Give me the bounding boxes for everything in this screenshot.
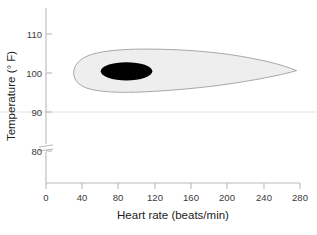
x-tick-label-160: 160: [183, 192, 199, 203]
x-tick-label-0: 0: [43, 192, 48, 203]
y-tick-label-110: 110: [27, 29, 42, 40]
chart-figure: 110 100 90 80 0 40 80 120 160 200 240 28…: [0, 0, 317, 235]
x-tick-label-80: 80: [113, 192, 124, 203]
x-axis-title: Heart rate (beats/min): [117, 209, 229, 221]
x-tick-label-40: 40: [77, 192, 88, 203]
x-tick-label-240: 240: [256, 192, 272, 203]
y-tick-label-100: 100: [26, 68, 42, 79]
y-axis-title: Temperature (° F): [5, 51, 17, 141]
y-tick-label-90: 90: [31, 107, 42, 118]
chart-canvas: 110 100 90 80 0 40 80 120 160 200 240 28…: [0, 0, 317, 235]
x-tick-label-120: 120: [147, 192, 163, 203]
inner-core-ellipse: [101, 62, 153, 80]
x-tick-label-280: 280: [292, 192, 308, 203]
y-tick-label-80: 80: [31, 146, 42, 157]
x-tick-label-200: 200: [219, 192, 235, 203]
